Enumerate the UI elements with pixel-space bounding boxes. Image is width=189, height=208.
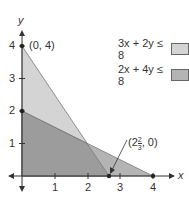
y-tick-4: 4 (9, 39, 15, 51)
chart: y x (0, 4) 4 3 2 1 1 2 3 4 (223, 0) 3x +… (0, 0, 189, 208)
x-tick-1: 1 (52, 181, 58, 193)
point-frac-label: (223, 0) (128, 136, 158, 151)
x-axis-label: x (178, 169, 184, 181)
x-tick-3: 3 (117, 181, 123, 193)
legend-item-1: 3x + 2y ≤ 8 (118, 37, 189, 61)
x-tick-2: 2 (85, 181, 91, 193)
y-tick-1: 1 (9, 137, 15, 149)
x-tick-4: 4 (150, 181, 156, 193)
point-0-4-label: (0, 4) (29, 39, 55, 51)
legend-item-2: 2x + 4y ≤ 8 (118, 63, 189, 87)
legend-swatch-dark (171, 69, 189, 81)
y-tick-3: 3 (9, 72, 15, 84)
legend-swatch-light (171, 43, 189, 55)
y-axis-label: y (18, 14, 24, 26)
y-tick-2: 2 (9, 104, 15, 116)
plot-area (0, 0, 189, 208)
